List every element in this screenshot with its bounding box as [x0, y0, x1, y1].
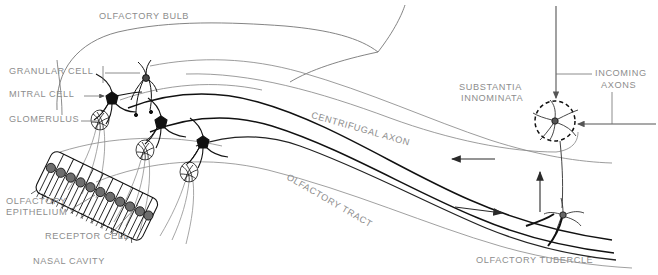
- label-olfactory-epithelium-line2: EPITHELIUM: [6, 207, 67, 218]
- label-olfactory-tubercle: OLFACTORY TUBERCLE: [476, 255, 593, 266]
- label-substantia-innominata-line1: SUBSTANTIA: [459, 82, 522, 93]
- olfactory-tubercle-neuron: [526, 198, 584, 246]
- label-granular-cell: GRANULAR CELL: [9, 66, 93, 77]
- label-incoming-axons-line2: AXONS: [601, 80, 636, 91]
- label-incoming-axons-line1: INCOMING: [595, 68, 647, 79]
- label-mitral-cell: MITRAL CELL: [9, 89, 74, 100]
- label-olfactory-bulb: OLFACTORY BULB: [99, 11, 189, 22]
- olfactory-tract-bundle: [128, 94, 614, 253]
- label-substantia-innominata-line2: INNOMINATA: [461, 93, 523, 104]
- glomerulus-3: [180, 162, 198, 182]
- label-receptor-cell: RECEPTOR CELL: [45, 231, 129, 242]
- substantia-innominata-marker: [533, 100, 578, 141]
- olfactory-tract-bundle-inner: [196, 137, 616, 260]
- label-nasal-cavity: NASAL CAVITY: [33, 256, 105, 267]
- olfactory-pathway-diagram: OLFACTORY BULB GRANULAR CELL MITRAL CELL…: [0, 0, 658, 275]
- granular-cell: [131, 60, 157, 117]
- glomerulus-2: [136, 140, 154, 160]
- glomerulus-1: [91, 110, 109, 130]
- label-olfactory-epithelium-line1: OLFACTORY: [6, 196, 67, 207]
- label-glomerulus: GLOMERULUS: [9, 114, 79, 125]
- tract-lower-boundary: [60, 138, 632, 268]
- mitral-cell-3: [187, 118, 228, 168]
